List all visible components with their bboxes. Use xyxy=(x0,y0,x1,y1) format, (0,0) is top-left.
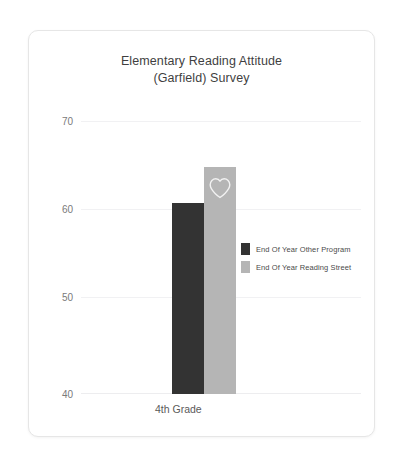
chart-card: Elementary Reading Attitude (Garfield) S… xyxy=(28,30,375,437)
legend-label-reading-street: End Of Year Reading Street xyxy=(256,263,351,272)
legend-item-other-program[interactable]: End Of Year Other Program xyxy=(241,243,371,255)
bar-end-of-year-reading-street[interactable] xyxy=(204,167,236,395)
legend-label-other-program: End Of Year Other Program xyxy=(256,245,351,254)
x-tick-label-4th-grade: 4th Grade xyxy=(155,403,202,415)
bar-end-of-year-other-program[interactable] xyxy=(172,203,204,394)
y-tick-label-50: 50 xyxy=(62,292,73,303)
legend-item-reading-street[interactable]: End Of Year Reading Street xyxy=(241,261,371,273)
x-axis-category-label: 4th Grade xyxy=(81,403,361,415)
heart-icon xyxy=(208,177,232,199)
legend-swatch-other-program xyxy=(241,243,250,255)
chart-title-line-2: (Garfield) Survey xyxy=(29,70,374,87)
chart-title-line-1: Elementary Reading Attitude xyxy=(29,53,374,70)
chart-title: Elementary Reading Attitude (Garfield) S… xyxy=(29,53,374,87)
bar-chart: Elementary Reading Attitude (Garfield) S… xyxy=(29,31,374,436)
legend-swatch-reading-street xyxy=(241,261,250,273)
y-tick-label-60: 60 xyxy=(62,204,73,215)
y-tick-label-40: 40 xyxy=(62,389,73,400)
chart-legend: End Of Year Other Program End Of Year Re… xyxy=(241,243,371,279)
gridline-70 xyxy=(81,121,361,122)
y-tick-label-70: 70 xyxy=(62,116,73,127)
